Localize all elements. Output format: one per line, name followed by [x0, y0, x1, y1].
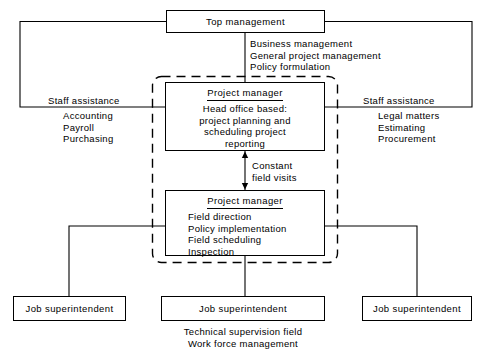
- field-duty-0: Field direction: [188, 211, 287, 223]
- head-office-project-manager-duties: Head office based: project planning and …: [199, 103, 291, 149]
- field-duty-1: Policy implementation: [188, 223, 287, 235]
- node-job-superintendent-center[interactable]: Job superintendent: [161, 296, 325, 321]
- job-superintendent-duty-1: Work force management: [161, 338, 325, 350]
- constant-field-visits-line-0: Constant: [252, 160, 297, 172]
- node-head-office-project-manager[interactable]: Project manager Head office based: proje…: [165, 82, 325, 151]
- top-management-duty-0: Business management: [250, 38, 381, 50]
- job-superintendent-duties: Technical supervision field Work force m…: [161, 326, 325, 349]
- constant-field-visits-label: Constant field visits: [252, 160, 297, 183]
- arrowhead-down-field-visits: [242, 183, 248, 190]
- staff-assistance-right-item-1: Estimating: [378, 122, 439, 134]
- job-superintendent-left-label: Job superintendent: [25, 303, 113, 315]
- staff-assistance-left-items: Accounting Payroll Purchasing: [63, 110, 114, 145]
- head-office-project-manager-title: Project manager: [207, 87, 283, 101]
- head-office-duty-0: Head office based:: [199, 103, 291, 115]
- top-management-duties: Business management General project mana…: [250, 38, 381, 73]
- head-office-duty-2: scheduling project: [199, 126, 291, 138]
- field-project-manager-duties: Field direction Policy implementation Fi…: [188, 211, 287, 257]
- top-management-label: Top management: [206, 16, 285, 28]
- field-duty-3: Inspection: [188, 246, 287, 258]
- node-job-superintendent-left[interactable]: Job superintendent: [13, 296, 126, 321]
- staff-assistance-left-item-2: Purchasing: [63, 133, 114, 145]
- node-field-project-manager[interactable]: Project manager Field direction Policy i…: [165, 190, 325, 256]
- head-office-duty-3: reporting: [199, 138, 291, 150]
- top-management-duty-2: Policy formulation: [250, 61, 381, 73]
- arrowhead-up-field-visits: [242, 152, 248, 159]
- staff-assistance-right-heading: Staff assistance: [363, 95, 435, 106]
- staff-assistance-right-item-2: Procurement: [378, 133, 439, 145]
- staff-assistance-left-item-0: Accounting: [63, 110, 114, 122]
- line-field-pm-to-right-superintendent: [325, 226, 417, 296]
- staff-assistance-left-item-1: Payroll: [63, 122, 114, 134]
- staff-assistance-left-heading: Staff assistance: [48, 95, 120, 106]
- job-superintendent-right-label: Job superintendent: [373, 303, 461, 315]
- org-chart-diagram: Top management Business management Gener…: [0, 0, 489, 362]
- line-field-pm-to-left-superintendent: [69, 226, 165, 296]
- field-duty-2: Field scheduling: [188, 234, 287, 246]
- head-office-duty-1: project planning and: [199, 115, 291, 127]
- constant-field-visits-line-1: field visits: [252, 172, 297, 184]
- node-top-management[interactable]: Top management: [166, 10, 325, 33]
- staff-assistance-right-item-0: Legal matters: [378, 110, 439, 122]
- top-management-duty-1: General project management: [250, 50, 381, 62]
- staff-assistance-right-items: Legal matters Estimating Procurement: [378, 110, 439, 145]
- job-superintendent-duty-0: Technical supervision field: [161, 326, 325, 338]
- job-superintendent-center-label: Job superintendent: [199, 303, 287, 315]
- field-project-manager-title: Project manager: [207, 195, 283, 209]
- node-job-superintendent-right[interactable]: Job superintendent: [362, 296, 472, 321]
